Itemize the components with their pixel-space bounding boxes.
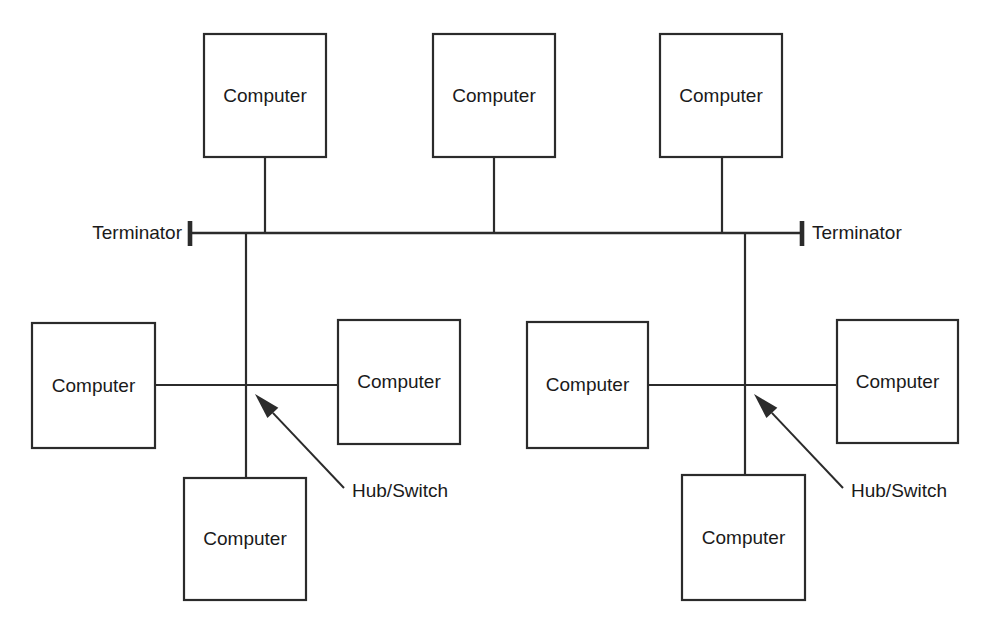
terminator-label: Terminator — [92, 222, 182, 243]
computer-node-label: Computer — [357, 371, 441, 392]
computer-node-label: Computer — [679, 85, 763, 106]
computer-node: Computer — [433, 34, 555, 157]
computer-nodes-group: ComputerComputerComputerComputerComputer… — [32, 34, 958, 600]
network-topology-diagram: ComputerComputerComputerComputerComputer… — [0, 0, 986, 635]
computer-node: Computer — [184, 478, 306, 600]
computer-node: Computer — [682, 475, 805, 600]
computer-node: Computer — [660, 34, 782, 157]
hub-switch-label: Hub/Switch — [851, 480, 947, 501]
computer-node-label: Computer — [452, 85, 536, 106]
terminator: Terminator — [92, 221, 190, 246]
computer-node: Computer — [338, 320, 460, 444]
diagram-canvas: ComputerComputerComputerComputerComputer… — [0, 0, 986, 635]
computer-node-label: Computer — [203, 528, 287, 549]
terminator: Terminator — [802, 221, 902, 246]
computer-node-label: Computer — [223, 85, 307, 106]
computer-node: Computer — [32, 323, 155, 448]
computer-node: Computer — [527, 322, 648, 448]
computer-node: Computer — [837, 320, 958, 443]
computer-node-label: Computer — [702, 527, 786, 548]
computer-node: Computer — [204, 34, 326, 157]
computer-node-label: Computer — [546, 374, 630, 395]
hub-switch-label: Hub/Switch — [352, 480, 448, 501]
hub-callout-leader-line — [273, 413, 344, 488]
computer-node-label: Computer — [52, 375, 136, 396]
terminator-label: Terminator — [812, 222, 902, 243]
computer-node-label: Computer — [856, 371, 940, 392]
